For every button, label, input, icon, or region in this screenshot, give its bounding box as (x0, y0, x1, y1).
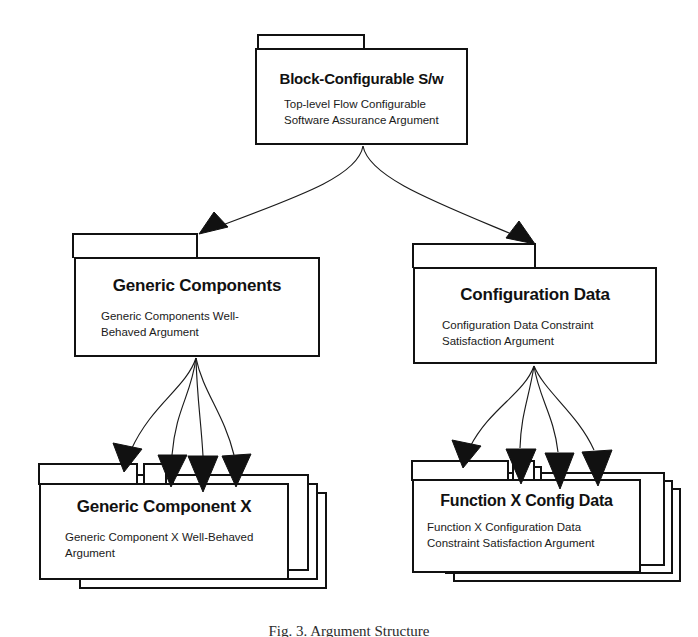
edge-cd-to-fxcd-4 (534, 366, 594, 450)
figure-caption: Fig. 3. Argument Structure (0, 623, 698, 637)
edge-cd-to-fxcd-3 (534, 366, 558, 452)
package-title: Function X Config Data (414, 492, 639, 510)
package-stack-tab (512, 460, 535, 479)
package-subtitle: Generic Components Well- Behaved Argumen… (101, 308, 301, 341)
package-stack-tab (143, 463, 167, 483)
edge-gc-to-gcx-1 (131, 358, 196, 450)
edge-cd-to-fxcd-1 (470, 366, 534, 447)
package-title: Block-Configurable S/w (257, 70, 466, 87)
package-body: Generic Components Generic Components We… (74, 257, 320, 357)
edge-cd-to-fxcd-2 (520, 366, 534, 448)
package-subtitle: Top-level Flow Configurable Software Ass… (284, 96, 454, 129)
edge-gc-to-gcx-4 (196, 358, 234, 455)
package-title: Configuration Data (415, 285, 655, 305)
package-tab (38, 463, 138, 485)
package-tab (411, 460, 509, 481)
arrowhead-configuration-data (506, 221, 535, 244)
edge-gc-to-gcx-2 (172, 358, 196, 455)
package-subtitle: Configuration Data Constraint Satisfacti… (442, 317, 652, 350)
package-body: Function X Config Data Function X Config… (412, 479, 641, 573)
package-body: Block-Configurable S/w Top-level Flow Co… (255, 48, 468, 145)
package-tab (412, 243, 536, 268)
edge-root-to-generic-components (212, 146, 363, 229)
package-title: Generic Components (76, 276, 318, 296)
arrowhead-generic-components (199, 212, 228, 234)
diagram-canvas: Block-Configurable S/w Top-level Flow Co… (0, 0, 698, 637)
package-body: Generic Component X Generic Component X … (39, 483, 289, 580)
package-title: Generic Component X (41, 497, 287, 517)
package-subtitle: Function X Configuration Data Constraint… (427, 519, 643, 552)
package-body: Configuration Data Configuration Data Co… (413, 267, 657, 364)
edge-gc-to-gcx-3 (196, 358, 203, 456)
package-subtitle: Generic Component X Well-Behaved Argumen… (65, 529, 281, 562)
package-tab (72, 233, 198, 258)
edge-root-to-configuration-data (363, 146, 521, 238)
